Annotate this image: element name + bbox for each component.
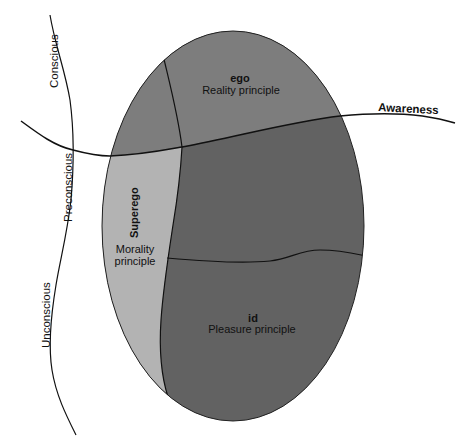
conscious-label: Conscious <box>48 34 60 88</box>
superego-region <box>0 147 182 447</box>
preconscious-label: Preconscious <box>62 153 74 222</box>
id-principle-label: Pleasure principle <box>208 323 295 335</box>
ego-principle-label: Reality principle <box>202 84 280 96</box>
unconscious-label: Unconscious <box>40 282 52 348</box>
superego-principle-line2: principle <box>115 255 156 267</box>
ego-label: ego <box>230 72 250 84</box>
superego-principle-line1: Morality <box>116 243 155 255</box>
superego-label: Superego <box>128 187 140 238</box>
psyche-diagram: Conscious Preconscious Unconscious Aware… <box>0 0 476 447</box>
